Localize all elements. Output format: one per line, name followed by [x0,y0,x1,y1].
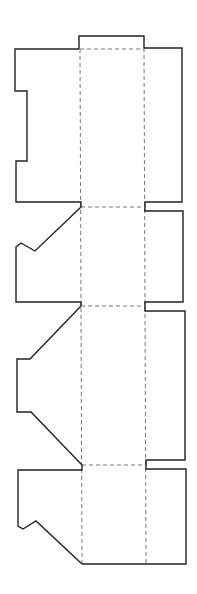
left-flap-3-cut-line [17,306,82,564]
fold-lines [80,48,146,564]
top-tab-cut-line [79,36,144,49]
left-flap-1-cut-line [15,49,81,207]
left-flap-2-cut-line [16,207,81,306]
bottom-edge-cut-line [82,465,186,564]
box-dieline-diagram [0,0,197,594]
right-flaps-cut-line [144,48,185,465]
cut-lines [15,36,186,564]
